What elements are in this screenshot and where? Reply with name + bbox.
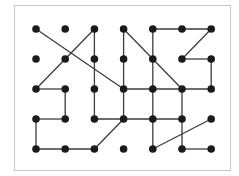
dot-grid-diagram (0, 0, 239, 176)
dot-1-1 (61, 55, 69, 63)
dot-6-2 (207, 85, 215, 93)
dot-1-0 (61, 25, 69, 33)
dot-2-3 (91, 115, 99, 123)
dot-0-2 (32, 85, 40, 93)
dot-1-4 (61, 145, 69, 153)
dot-1-2 (61, 85, 69, 93)
dot-1-3 (61, 115, 69, 123)
dot-4-4 (149, 145, 157, 153)
edge-7 (182, 29, 211, 59)
dot-2-0 (91, 25, 99, 33)
dot-6-1 (207, 55, 215, 63)
dot-2-1 (91, 55, 99, 63)
dot-5-4 (178, 145, 186, 153)
dot-0-4 (32, 145, 40, 153)
dot-2-4 (91, 145, 99, 153)
dot-5-2 (178, 85, 186, 93)
dot-2-2 (91, 85, 99, 93)
dot-3-3 (120, 115, 128, 123)
dot-4-3 (149, 115, 157, 123)
dot-5-3 (178, 115, 186, 123)
dot-3-1 (120, 55, 128, 63)
edge-15 (94, 119, 123, 149)
dot-6-3 (207, 115, 215, 123)
dot-4-1 (149, 55, 157, 63)
dot-0-0 (32, 25, 40, 33)
dot-6-4 (207, 145, 215, 153)
edge-0 (36, 29, 124, 89)
dot-0-1 (32, 55, 40, 63)
dot-4-0 (149, 25, 157, 33)
dot-5-1 (178, 55, 186, 63)
dot-6-0 (207, 25, 215, 33)
dot-0-3 (32, 115, 40, 123)
dot-3-0 (120, 25, 128, 33)
dot-3-4 (120, 145, 128, 153)
dot-4-2 (149, 85, 157, 93)
dot-5-0 (178, 25, 186, 33)
dot-3-2 (120, 85, 128, 93)
